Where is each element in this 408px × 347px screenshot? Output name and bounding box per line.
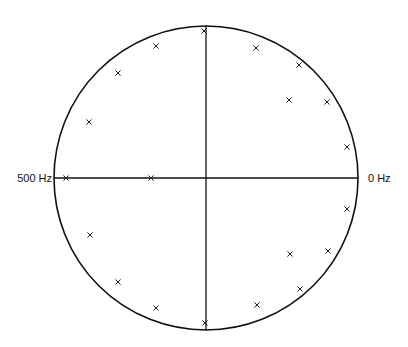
pole-marker — [297, 286, 302, 291]
pole-marker — [286, 97, 291, 102]
pole-marker — [296, 62, 301, 67]
pole-marker — [153, 305, 158, 310]
pole-marker — [254, 302, 259, 307]
pole-marker — [287, 251, 292, 256]
pole-marker — [153, 43, 158, 48]
label-500hz: 500 Hz — [17, 172, 52, 184]
pole-marker — [87, 232, 92, 237]
pole-marker — [202, 320, 207, 325]
pole-marker — [325, 248, 330, 253]
pole-marker — [115, 70, 120, 75]
pole-marker — [86, 119, 91, 124]
pole-marker — [115, 279, 120, 284]
polar-plot: 500 Hz 0 Hz — [0, 0, 408, 347]
pole-marker — [324, 99, 329, 104]
pole-marker — [344, 206, 349, 211]
label-0hz: 0 Hz — [368, 172, 391, 184]
pole-marker — [344, 144, 349, 149]
pole-marker — [253, 45, 258, 50]
